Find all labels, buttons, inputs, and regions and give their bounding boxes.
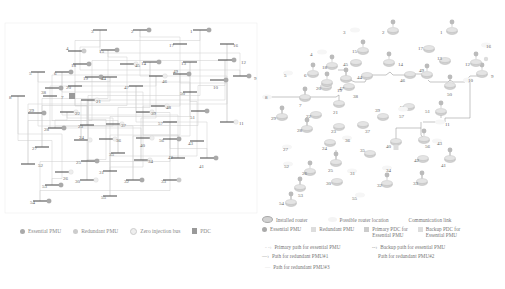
essential-pmu-icon	[387, 52, 392, 57]
node-45: 45	[343, 60, 362, 67]
node-label: 45	[343, 62, 349, 67]
bus-15: 15	[99, 48, 119, 54]
node-label: 13	[437, 56, 443, 61]
legend-label: Redundant PMU	[81, 228, 118, 234]
node-52: 52	[283, 162, 293, 169]
legend-installed-router: Installed router	[262, 216, 308, 223]
node-label: 15	[352, 49, 358, 54]
node-label: 27	[283, 147, 289, 152]
essential-pmu-icon	[187, 72, 192, 77]
legend-row-1: Installed router Possible router locatio…	[262, 216, 451, 223]
node-2: 2	[382, 20, 399, 35]
router-top	[358, 122, 369, 127]
bus-label: 15	[99, 49, 105, 54]
router-top	[358, 48, 369, 53]
bus-40: 40	[136, 136, 154, 148]
node-36: 36	[342, 136, 352, 143]
essential-pmu-icon	[439, 101, 444, 106]
node-label: 31	[350, 171, 356, 176]
router-top	[378, 114, 389, 119]
router-top	[391, 139, 402, 144]
right-legend: Installed router Possible router locatio…	[260, 216, 505, 289]
node-10: 10	[463, 78, 474, 83]
essential-pmu-icon	[42, 111, 47, 116]
node-16: 16	[481, 43, 492, 62]
bus-4: 4	[66, 46, 86, 54]
node-55: 55	[352, 193, 365, 201]
bus-label: 14	[141, 61, 147, 66]
legend-path-redundant-2: Path for redundant PMU#2	[378, 253, 434, 259]
essential-pmu-icon	[59, 183, 64, 188]
bus-label: 48	[166, 105, 172, 110]
line-segment	[18, 96, 62, 172]
line-segment	[110, 141, 197, 171]
line-segment	[80, 64, 240, 76]
bus-32: 32	[124, 178, 144, 184]
primary-path-arrow-icon: - -›	[265, 244, 271, 250]
node-53: 53	[295, 177, 306, 198]
node-label: 34	[386, 168, 392, 173]
bus-31: 31	[99, 170, 117, 175]
node-label: 29	[271, 116, 277, 121]
node-label: 54	[279, 201, 285, 206]
essential-pmu-icon	[280, 106, 285, 111]
node-label: 6	[304, 73, 307, 78]
router-top	[405, 72, 416, 77]
bus-label: 27	[32, 146, 38, 151]
bus-41: 41	[199, 156, 218, 169]
line-segment	[75, 30, 200, 51]
node-label: 18	[322, 65, 328, 70]
bus-label: 21	[96, 99, 102, 104]
bus-label: 49	[173, 69, 179, 74]
left-legend: Essential PMU Redundant PMU Zero injecti…	[20, 224, 260, 238]
node-label: 30	[326, 181, 332, 186]
redundant-pmu-icon	[177, 178, 182, 183]
bus-label: 1	[190, 29, 193, 34]
backup-path-arrow-icon: --›	[372, 244, 377, 250]
router-top	[334, 101, 345, 106]
bus-26: 26	[55, 170, 73, 181]
bus-29: 29	[28, 108, 46, 116]
pdc-icon	[69, 93, 75, 99]
router-top	[322, 80, 333, 85]
essential-pmu-icon	[214, 156, 219, 161]
essential-pmu-icon	[450, 20, 455, 25]
bus-label: 16	[233, 43, 239, 48]
node-label: 56	[425, 144, 431, 149]
zero-injection-icon	[130, 228, 137, 235]
node-51: 51	[425, 101, 447, 116]
essential-pmu-icon	[59, 86, 64, 91]
router-top	[351, 60, 362, 65]
node-49: 49	[419, 64, 433, 79]
node-label: 35	[360, 148, 366, 153]
node-label: 9	[491, 74, 494, 79]
node-6: 6	[304, 63, 319, 78]
router-top	[325, 140, 336, 145]
essential-pmu-icon	[308, 161, 313, 166]
legend-label: Essential PMU	[28, 228, 61, 234]
bus-label: 24	[79, 135, 85, 140]
node-29: 29	[271, 106, 288, 121]
node-label: 44	[357, 75, 363, 80]
legend-pdc: PDC	[192, 228, 211, 234]
node-27: 27	[282, 145, 292, 152]
node-label: 14	[398, 62, 404, 67]
node-label: 47	[339, 86, 345, 91]
bus-network-svg: 1234567891011121314151617181920212223242…	[0, 0, 260, 240]
essential-pmu-icon	[87, 62, 92, 67]
bus-22: 22	[60, 110, 81, 116]
bus-37: 37	[106, 122, 127, 128]
node-42: 42	[414, 156, 429, 163]
essential-pmu-icon	[62, 126, 67, 131]
node-14: 14	[384, 52, 404, 67]
essential-pmu-icon	[448, 75, 453, 80]
bus-17: 17	[169, 43, 187, 48]
router-top	[365, 151, 376, 156]
node-18: 18	[322, 55, 338, 70]
node-label: 26	[302, 171, 308, 176]
bus-label: 41	[199, 164, 205, 169]
redundant-pmu-icon	[73, 229, 78, 234]
legend-label: Backup path for essential PMU	[380, 244, 445, 250]
bus-44: 44	[101, 76, 117, 81]
bus-50: 50	[180, 91, 197, 96]
